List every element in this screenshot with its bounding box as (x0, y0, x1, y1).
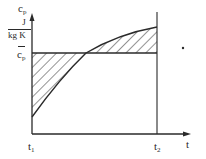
y-axis-subscript: p (23, 8, 27, 16)
y-axis-label: cp (18, 3, 26, 16)
t2-subscript: 2 (157, 146, 161, 154)
t1-label: t1 (28, 141, 35, 154)
dot-marker (182, 47, 184, 49)
x-axis-arrow-icon (183, 132, 191, 137)
unit-numerator: J (17, 18, 31, 27)
unit-denominator: kg K (8, 31, 26, 40)
x-axis-label: t (186, 139, 189, 150)
mean-cp-label: cp (17, 49, 25, 62)
mean-cp-subscript: p (22, 54, 26, 62)
t1-subscript: 1 (31, 146, 35, 154)
t2-label: t2 (154, 141, 161, 154)
mean-overbar (18, 46, 25, 47)
